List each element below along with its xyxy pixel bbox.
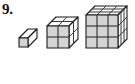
cube-1x1x1 <box>17 27 39 49</box>
cube-sequence-figure <box>0 0 135 84</box>
figure-screenshot: 9. <box>0 0 135 84</box>
cube-2x2x2 <box>45 12 79 49</box>
cube-1x1x1-front-face <box>19 38 28 47</box>
cube-3x3x3-front-face <box>86 15 118 48</box>
cube-3x3x3 <box>83 0 128 49</box>
